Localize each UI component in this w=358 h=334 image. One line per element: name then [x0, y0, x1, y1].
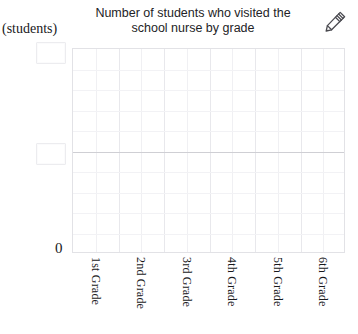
gridline-horizontal — [73, 213, 344, 214]
x-axis-tick: 6th Grade — [300, 253, 346, 334]
gridline-horizontal — [73, 70, 344, 71]
y-axis-max-value-input[interactable] — [36, 42, 66, 64]
x-axis-tick-label: 5th Grade — [269, 257, 284, 306]
gridline-vertical — [119, 49, 120, 252]
chart-title: Number of students who visited the schoo… — [77, 6, 309, 36]
x-axis-tick: 1st Grade — [72, 253, 118, 334]
x-axis-tick: 4th Grade — [209, 253, 255, 334]
gridline-vertical — [323, 49, 324, 252]
x-axis-tick-label: 1st Grade — [87, 257, 102, 305]
y-axis-unit-label: (students) — [2, 21, 57, 37]
gridline-vertical — [210, 49, 211, 252]
pencil-icon[interactable] — [322, 9, 348, 35]
gridline-horizontal — [73, 172, 344, 173]
gridline-vertical — [301, 49, 302, 252]
gridline-horizontal — [73, 234, 344, 235]
x-axis-tick-label: 2nd Grade — [133, 257, 148, 309]
horizontal-gridlines — [73, 49, 344, 252]
x-axis-tick-label: 4th Grade — [224, 257, 239, 306]
y-axis-mid-value-input[interactable] — [36, 143, 66, 165]
gridline-horizontal — [73, 131, 344, 132]
x-axis-tick: 2nd Grade — [118, 253, 164, 334]
x-axis-tick: 5th Grade — [254, 253, 300, 334]
y-axis-zero-label: 0 — [55, 240, 63, 257]
gridline-vertical — [232, 49, 233, 252]
gridline-horizontal — [73, 90, 344, 91]
gridline-horizontal — [73, 111, 344, 112]
x-axis-tick-label: 6th Grade — [315, 257, 330, 306]
x-axis-tick-label: 3rd Grade — [178, 257, 193, 307]
gridline-vertical — [141, 49, 142, 252]
gridline-vertical — [278, 49, 279, 252]
bar-chart-widget: (students) Number of students who visite… — [0, 0, 358, 334]
gridline-horizontal — [73, 193, 344, 194]
chart-title-line-2: school nurse by grade — [132, 21, 255, 35]
plot-area — [72, 48, 345, 253]
vertical-gridlines — [73, 49, 344, 252]
chart-title-line-1: Number of students who visited the — [95, 6, 290, 20]
x-axis-labels: 1st Grade2nd Grade3rd Grade4th Grade5th … — [72, 253, 345, 334]
gridline-vertical — [164, 49, 165, 252]
gridline-vertical — [255, 49, 256, 252]
gridline-vertical — [96, 49, 97, 252]
gridline-horizontal — [73, 152, 344, 153]
x-axis-tick: 3rd Grade — [163, 253, 209, 334]
gridline-vertical — [187, 49, 188, 252]
